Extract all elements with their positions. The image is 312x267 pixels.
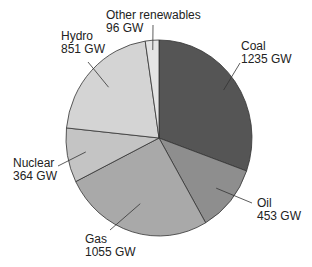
label-nuclear-value: 364 GW [13,170,57,183]
label-other-renewables-value: 96 GW [106,22,201,35]
label-oil-value: 453 GW [257,210,301,223]
label-gas-value: 1055 GW [85,246,136,259]
label-oil: Oil 453 GW [257,197,301,223]
label-nuclear: Nuclear 364 GW [13,157,57,183]
label-hydro-value: 851 GW [61,43,105,56]
label-coal-value: 1235 GW [241,53,292,66]
label-other-renewables: Other renewables 96 GW [106,9,201,35]
label-gas: Gas 1055 GW [85,233,136,259]
label-coal: Coal 1235 GW [241,40,292,66]
label-hydro: Hydro 851 GW [61,30,105,56]
